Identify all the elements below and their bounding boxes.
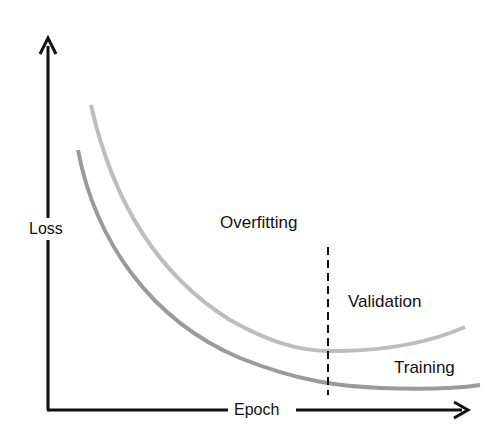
overfitting-label: Overfitting <box>220 213 297 233</box>
validation-label: Validation <box>348 292 421 312</box>
x-axis-label: Epoch <box>234 401 279 419</box>
y-axis-label: Loss <box>29 218 63 240</box>
training-curve <box>78 150 480 389</box>
training-label: Training <box>394 358 455 378</box>
